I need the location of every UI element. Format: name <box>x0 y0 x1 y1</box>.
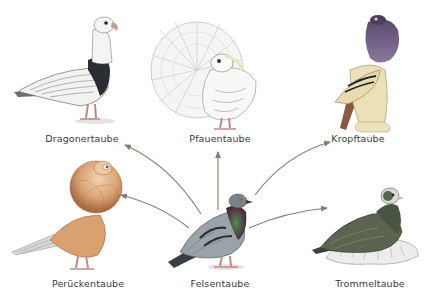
label-dragonertaube: Dragonertaube <box>45 133 118 144</box>
dragonertaube-illustration <box>14 17 118 124</box>
arrow-to-trommeltaube <box>249 208 327 228</box>
pfauentaube-illustration <box>151 22 256 129</box>
felsentaube-illustration <box>168 194 253 270</box>
arrow-to-dragonertaube <box>125 145 201 214</box>
pigeon-breeds-diagram: Dragonertaube Pfauentaube Kropftaube Per… <box>0 0 428 291</box>
label-perueckentaube: Perückentaube <box>52 278 124 289</box>
perueckentaube-illustration <box>12 161 122 269</box>
label-trommeltaube: Trommeltaube <box>335 278 405 289</box>
label-pfauentaube: Pfauentaube <box>189 133 250 144</box>
trommeltaube-illustration <box>312 188 418 264</box>
diagram-canvas <box>0 0 428 291</box>
arrow-to-perueckentaube <box>121 195 189 228</box>
arrow-to-kropftaube <box>255 142 330 195</box>
label-kropftaube: Kropftaube <box>331 133 384 144</box>
kropftaube-illustration <box>335 15 399 132</box>
label-felsentaube: Felsentaube <box>191 278 250 289</box>
